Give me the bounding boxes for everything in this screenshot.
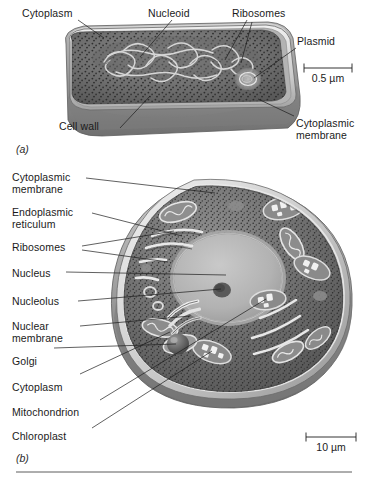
label-nucleoid: Nucleoid	[148, 8, 190, 20]
label-cytoplasmic-membrane-b: Cytoplasmic membrane	[12, 172, 70, 195]
panel-tag-b: (b)	[16, 452, 29, 464]
label-nuclear-membrane: Nuclear membrane	[12, 321, 63, 344]
label-ribosomes-b: Ribosomes	[12, 242, 65, 254]
label-endoplasmic-reticulum: Endoplasmic reticulum	[12, 207, 73, 230]
label-cytoplasm-a: Cytoplasm	[22, 8, 73, 20]
label-cytoplasmic-membrane-a: Cytoplasmic membrane	[296, 118, 354, 141]
plasmid-region	[235, 68, 261, 90]
vesicle-highlight	[170, 337, 177, 343]
label-cytoplasm-b: Cytoplasm	[12, 382, 63, 394]
label-chloroplast: Chloroplast	[12, 431, 66, 443]
label-golgi: Golgi	[12, 356, 37, 368]
eukaryotic-cell-illustration	[54, 175, 360, 442]
nucleolus-core	[215, 284, 225, 292]
label-mitochondrion: Mitochondrion	[12, 407, 79, 419]
label-nucleolus: Nucleolus	[12, 296, 59, 308]
scale-bar-label-b: 10 µm	[303, 441, 359, 453]
label-nucleus: Nucleus	[12, 268, 51, 280]
label-ribosomes-a: Ribosomes	[232, 8, 285, 20]
figure-root: Cytoplasm Nucleoid Ribosomes Plasmid Cel…	[0, 0, 368, 480]
panel-tag-a: (a)	[16, 143, 29, 155]
label-cell-wall: Cell wall	[59, 121, 99, 133]
scale-bar-label-a: 0.5 µm	[300, 72, 356, 84]
label-plasmid: Plasmid	[297, 36, 335, 48]
